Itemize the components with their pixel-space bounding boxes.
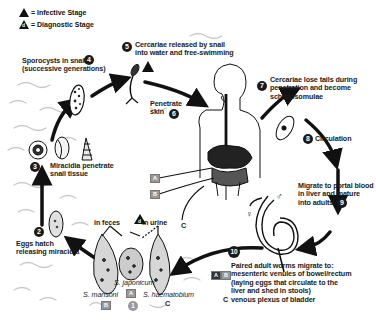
species-japonicum-label: S. japonicum xyxy=(114,279,154,287)
step-6-badge: 6 xyxy=(169,109,179,119)
step-3-badge: 3 xyxy=(30,162,40,172)
step-5-badge: 5 xyxy=(122,42,132,52)
in-feces-label: in feces xyxy=(94,219,120,227)
infective-stage-marker xyxy=(142,61,154,72)
body-label-a: A xyxy=(150,174,160,183)
step-5-label: Cercariae released by snailinto water an… xyxy=(135,41,234,58)
body-label-c: C xyxy=(181,222,186,230)
step-1-badge: 1 xyxy=(128,301,138,311)
step-10-label: Paired adult worms migrate to: mesenteri… xyxy=(231,262,351,304)
diagnostic-triangle-icon: d xyxy=(19,20,29,29)
step-10-tag-c: C xyxy=(223,296,228,304)
schistosomula-illustration xyxy=(272,113,297,143)
in-urine-label: in urine xyxy=(142,219,167,227)
step-9-badge: 9 xyxy=(337,198,347,208)
step-2-label: Eggs hatchreleasing miracidia xyxy=(16,240,79,257)
step-8-badge: 8 xyxy=(303,134,313,144)
species-mansoni-tag: B xyxy=(101,301,111,310)
snail-illustrations xyxy=(29,137,92,160)
step-4-badge: 4 xyxy=(84,55,94,65)
step-7-badge: 7 xyxy=(257,81,267,91)
body-label-b: B xyxy=(150,190,160,199)
miracidium-illustration xyxy=(46,208,66,240)
sporocyst-illustration xyxy=(68,84,86,116)
legend-infective-label: = Infective Stage xyxy=(31,9,86,16)
cercaria-illustration xyxy=(126,63,141,104)
step-10-tag-b: B xyxy=(221,271,231,280)
species-mansoni-label: S. mansoni xyxy=(83,291,118,299)
legend-diagnostic-label: = Diagnostic Stage xyxy=(31,21,94,28)
step-7-label: Cercariae lose tails duringpenetration a… xyxy=(270,76,357,101)
species-haematobium-tag: C xyxy=(165,300,170,308)
female-symbol: ♀ xyxy=(246,210,253,218)
step-9-label: Migrate to portal bloodin liver and matu… xyxy=(298,182,374,207)
legend-diagnostic: d = Diagnostic Stage xyxy=(19,20,94,29)
legend-infective: = Infective Stage xyxy=(19,8,86,17)
step-2-badge: 2 xyxy=(34,227,44,237)
step-10-tag-a: A xyxy=(211,271,221,280)
schistosoma-life-cycle-diagram: d = Infective Stage d = Diagnostic Stage… xyxy=(0,0,376,320)
step-3-label: Miracidia penetratesnail tissue xyxy=(50,162,114,179)
step-10-badge: 10 xyxy=(228,246,240,258)
infective-triangle-icon xyxy=(19,8,29,17)
svg-text:d: d xyxy=(138,218,141,224)
step-8-label: Circulation xyxy=(315,135,351,143)
male-symbol: ♂ xyxy=(276,192,283,200)
species-japonicum-tag: A xyxy=(126,289,136,298)
